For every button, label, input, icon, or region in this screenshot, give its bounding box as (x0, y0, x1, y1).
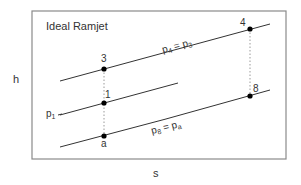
y-axis-label: h (13, 73, 19, 85)
svg-text:p4 = p3: p4 = p3 (161, 36, 194, 55)
x-axis-label: s (153, 167, 159, 179)
point-label-3: 3 (101, 53, 107, 64)
isobar-label-p4-p3: p4 = p3 (161, 36, 194, 55)
svg-text:p8 = pa: p8 = pa (150, 118, 182, 137)
point-label-8: 8 (253, 83, 259, 94)
ramjet-hs-diagram: Ideal Ramjet h s 3 1 a 4 8 p4 = p3 p1 p8… (0, 0, 301, 185)
diagram-title: Ideal Ramjet (46, 20, 108, 32)
point-label-4: 4 (240, 17, 246, 28)
svg-text:p1: p1 (46, 108, 56, 120)
state-point-4 (247, 26, 252, 31)
isobar-p1-line (60, 83, 178, 115)
point-label-a: a (101, 138, 107, 149)
isobar-label-p8-pa: p8 = pa (150, 118, 182, 137)
state-point-3 (101, 66, 106, 71)
state-point-1 (101, 100, 106, 105)
plot-frame (32, 11, 286, 159)
point-label-1: 1 (105, 89, 111, 100)
isobar-label-p1: p1 (46, 108, 56, 120)
isobar-p8-pa-curve (60, 90, 270, 147)
state-point-8 (247, 93, 252, 98)
